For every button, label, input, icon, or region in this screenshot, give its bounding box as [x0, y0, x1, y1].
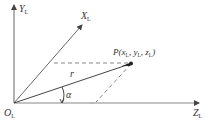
coordinate-diagram: YL XL ZL OL P(xL, yL, zL) r α	[0, 0, 209, 123]
angle-alpha-label: α	[66, 89, 72, 100]
z-axis-label: ZL	[193, 107, 203, 119]
point-p-label: P(xL, yL, zL)	[112, 47, 155, 58]
origin-label: OL	[4, 107, 15, 119]
point-p-dot	[129, 62, 133, 66]
vector-r-label: r	[70, 68, 74, 79]
x-axis-label: XL	[80, 10, 91, 22]
y-axis-label: YL	[19, 3, 29, 15]
